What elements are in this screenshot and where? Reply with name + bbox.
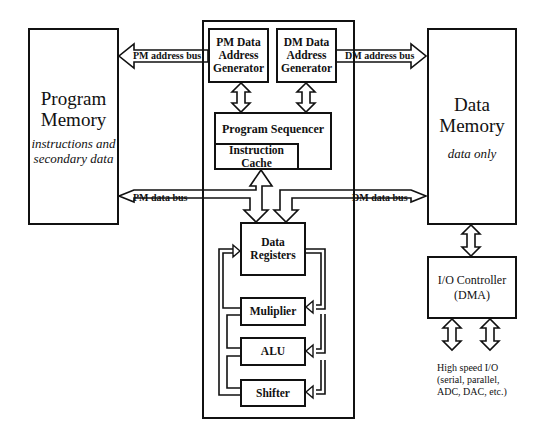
high-speed-io-note: High speed I/O (serial, parallel, ADC, D… bbox=[437, 362, 507, 398]
data-registers: Data Registers bbox=[240, 222, 306, 276]
shifter-unit: Shifter bbox=[240, 379, 306, 407]
program-memory-title-2: Memory bbox=[41, 109, 106, 130]
instruction-cache: Instruction Cache bbox=[214, 143, 299, 170]
program-memory-block: Program Memory instructions and secondar… bbox=[28, 28, 119, 225]
program-memory-subtitle: instructions and bbox=[31, 136, 115, 151]
multiplier-unit: Muliplier bbox=[240, 297, 306, 326]
data-memory-subtitle: data only bbox=[448, 146, 497, 161]
data-memory-title: Data bbox=[454, 94, 490, 115]
alu-unit: ALU bbox=[240, 337, 306, 366]
io-controller: I/O Controller (DMA) bbox=[427, 256, 517, 319]
pm-data-bus-label: PM data bus bbox=[133, 192, 187, 203]
program-memory-title: Program bbox=[41, 88, 106, 109]
dm-address-bus-label: DM address bus bbox=[345, 50, 414, 61]
data-memory-title-2: Memory bbox=[439, 115, 504, 136]
pm-data-address-generator: PM Data Address Generator bbox=[208, 28, 269, 83]
io-port-arrow-2 bbox=[481, 319, 499, 350]
program-sequencer-label: Program Sequencer bbox=[222, 122, 324, 136]
io-port-arrow-1 bbox=[443, 319, 461, 350]
data-memory-block: Data Memory data only bbox=[427, 28, 517, 225]
dm-data-address-generator: DM Data Address Generator bbox=[276, 28, 337, 83]
dm-data-bus-label: DM data bus bbox=[352, 192, 408, 203]
program-memory-subtitle-2: secondary data bbox=[34, 151, 114, 166]
dm-io-arrow bbox=[462, 225, 480, 256]
pm-address-bus-label: PM address bus bbox=[133, 50, 201, 61]
